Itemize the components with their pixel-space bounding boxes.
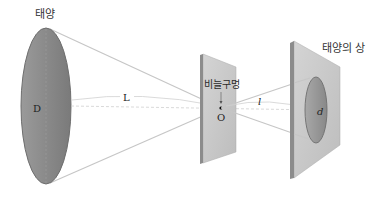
image-screen-edge (290, 41, 294, 179)
image-diameter-label: d (317, 106, 323, 117)
optical-axis (71, 106, 318, 110)
pinhole-O-label: O (217, 112, 225, 123)
distance-L-label: L (123, 92, 130, 103)
pinhole-label: 비늘구멍 (204, 79, 240, 90)
sun-diameter-label: D (33, 103, 41, 114)
sun-label: 태양 (35, 8, 55, 21)
image-label: 태양의 상 (322, 42, 366, 55)
distance-l-label: l (258, 96, 261, 107)
ray-bottom-sun (50, 108, 221, 183)
rays (50, 29, 221, 183)
distance-arc-L (72, 96, 218, 106)
pinhole-camera-diagram: 태양 D L 비늘구멍 O d 태양의 상 l (0, 0, 384, 199)
sun-image (305, 77, 327, 143)
pinhole-screen-edge (200, 54, 203, 164)
